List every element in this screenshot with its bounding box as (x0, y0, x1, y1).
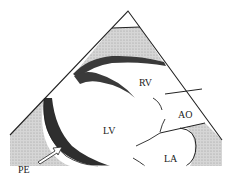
label-pe: PE (18, 165, 30, 175)
label-rv: RV (139, 78, 152, 88)
mitral-anterior-leaflet (136, 133, 160, 146)
label-la: LA (164, 154, 177, 164)
mitral-posterior-leaflet (133, 158, 145, 166)
label-lv: LV (103, 126, 115, 136)
aortic-valve-posterior (160, 119, 165, 132)
interventricular-septum (74, 72, 135, 98)
aortic-anterior-wall (165, 89, 202, 94)
echo-diagram (0, 0, 231, 184)
posterior-stipple-right (186, 123, 222, 166)
aortic-valve-anterior (153, 98, 162, 110)
label-ao: AO (178, 110, 192, 120)
